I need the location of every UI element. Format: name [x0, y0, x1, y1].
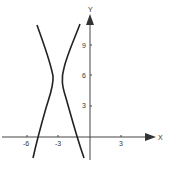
- left-branch-curve: [33, 25, 53, 158]
- x-tick-label: 3: [119, 140, 123, 147]
- y-axis-label: Y: [88, 6, 93, 13]
- y-tick-label: 9: [82, 42, 86, 49]
- hyperbola-chart: -6 -3 3 3 6 9 X Y: [0, 0, 171, 173]
- x-tick-label: -3: [55, 140, 61, 147]
- x-axis-label: X: [158, 134, 163, 141]
- y-tick-label: 6: [82, 72, 86, 79]
- x-axis-arrow-icon: [145, 133, 156, 141]
- right-branch-curve: [62, 24, 84, 158]
- y-axis-arrow-icon: [86, 14, 94, 25]
- x-tick-label: -6: [23, 140, 29, 147]
- y-tick-label: 3: [82, 102, 86, 109]
